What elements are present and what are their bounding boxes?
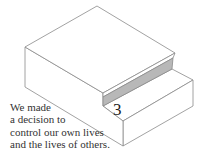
staircase-diagram: 3 We made a decision to control our own …	[0, 0, 201, 162]
caption-text: We made a decision to control our own li…	[10, 101, 110, 150]
step-number-label: 3	[113, 100, 122, 120]
caption-line: control our own lives	[10, 126, 110, 138]
caption-line: We made	[10, 101, 110, 113]
caption-line: and the lives of others.	[10, 138, 110, 150]
caption-line: a decision to	[10, 113, 110, 125]
